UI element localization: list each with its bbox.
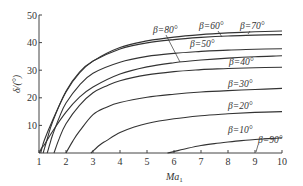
curve-label-beta-90: β=90°	[257, 135, 283, 145]
curve-label-beta-70: β=70°	[239, 21, 265, 31]
x-tick-label: 10	[277, 156, 287, 167]
curve-label-beta-40: β=40°	[228, 57, 254, 67]
x-tick-label: 6	[172, 156, 177, 167]
series-line-beta-60	[43, 35, 282, 153]
curve-label-beta-10: β=10°	[227, 125, 253, 135]
x-axis-title-main: Ma	[165, 171, 179, 182]
y-tick-label: 30	[27, 65, 37, 76]
series-line-beta-20	[91, 112, 282, 153]
y-axis-title: δ/(°)	[11, 74, 23, 93]
curve-label-beta-20: β=20°	[227, 101, 253, 111]
x-tick-label: 1	[37, 156, 42, 167]
y-tick-label: 50	[27, 10, 37, 21]
x-tick-label: 2	[64, 156, 69, 167]
curve-label-beta-80: β=80°	[152, 25, 178, 35]
chart: 1020304050 12345678910 δ/(°) Ma1 β=80°β=…	[0, 0, 303, 186]
y-tick-label: 40	[27, 37, 37, 48]
y-ticks: 1020304050	[27, 10, 42, 131]
x-tick-label: 7	[199, 156, 204, 167]
y-tick-label: 20	[27, 92, 37, 103]
series-line-beta-30	[66, 88, 282, 153]
x-axis-title-subscript: 1	[179, 176, 183, 184]
x-tick-label: 9	[253, 156, 258, 167]
x-axis-title: Ma1	[165, 171, 183, 184]
y-tick-label: 10	[27, 120, 37, 131]
curve-label-beta-30: β=30°	[227, 79, 253, 89]
x-tick-label: 5	[145, 156, 150, 167]
x-tick-label: 8	[226, 156, 231, 167]
curve-label-beta-50: β=50°	[189, 39, 215, 49]
x-tick-label: 4	[118, 156, 123, 167]
leader-line-beta-90	[256, 145, 258, 152]
curve-labels: β=80°β=70°β=60°β=50°β=40°β=30°β=20°β=10°…	[152, 21, 283, 152]
x-tick-label: 3	[91, 156, 96, 167]
curve-label-beta-60: β=60°	[198, 21, 224, 31]
